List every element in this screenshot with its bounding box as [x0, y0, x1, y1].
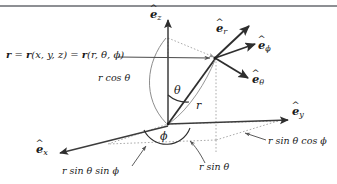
hat-accent-icon: ^ — [216, 17, 224, 27]
annotation-r-sin-theta-cos-phi: r sin θ cos ϕ — [268, 136, 327, 146]
leader-r-sin-theta-sin-phi — [132, 146, 146, 166]
annotation-r-sin-theta-sin-phi: r sin θ sin ϕ — [62, 166, 119, 176]
annotation-phi: ϕ — [160, 131, 168, 142]
leader-r-sin-theta-cos-phi — [245, 133, 266, 140]
basis-vector-e-theta — [215, 58, 248, 78]
annotation-r-cos-theta: r cos θ — [98, 73, 130, 83]
coordinate-diagram-graphic — [0, 0, 337, 184]
hat-accent-icon: ^ — [150, 3, 158, 13]
z-height-to-point-dotted — [168, 38, 214, 57]
annotation-r-sin-theta: r sin θ — [199, 162, 229, 172]
axis-label-e-y: ^ey — [292, 106, 304, 119]
basis-label-e-r: ^er — [216, 23, 227, 36]
position-eq-2: = — [67, 49, 82, 60]
hat-accent-icon: ^ — [252, 68, 260, 78]
leader-r-sin-theta — [190, 141, 205, 163]
basis-label-e-phi: ^eϕ — [258, 40, 271, 53]
position-args-2: (r, θ, ϕ) — [87, 49, 124, 60]
annotation-theta: θ — [174, 85, 181, 96]
r-cos-theta-arc — [149, 38, 166, 123]
position-label-leader — [118, 57, 210, 58]
hat-accent-icon: ^ — [292, 100, 300, 110]
position-eq-1: = — [11, 49, 26, 60]
hat-accent-icon: ^ — [258, 34, 266, 44]
point-p-marker — [213, 56, 216, 59]
hat-accent-icon: ^ — [36, 138, 44, 148]
basis-label-e-theta: ^eθ — [252, 74, 264, 87]
origin-marker — [167, 123, 170, 126]
position-args-1: (x, y, z) — [31, 49, 67, 60]
basis-vector-e-phi — [215, 44, 255, 58]
axis-label-e-z: ^ez — [150, 9, 162, 22]
axis-label-e-x: ^ex — [36, 144, 48, 157]
annotation-r: r — [196, 100, 201, 111]
spherical-coordinates-figure: ^ez ^ey ^ex ^er ^eϕ ^eθ r = r(x, y, z) =… — [0, 0, 337, 184]
position-vector-label: r = r(x, y, z) = r(r, θ, ϕ) — [6, 50, 124, 60]
